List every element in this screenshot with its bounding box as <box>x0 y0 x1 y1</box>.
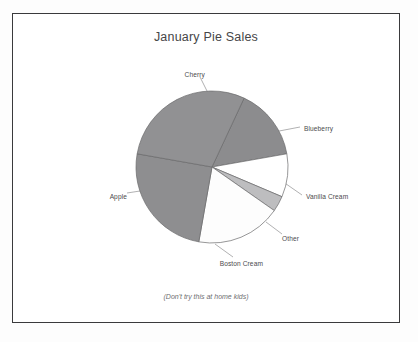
pie-slice-label: Blueberry <box>304 125 333 132</box>
pie-chart: BlueberryVanilla CreamOtherBoston CreamA… <box>13 14 401 324</box>
pie-slice[interactable] <box>136 154 212 242</box>
pie-slice-label: Other <box>282 235 299 242</box>
leader-line <box>127 191 140 193</box>
pie-slice-label: Vanilla Cream <box>306 193 348 200</box>
leader-line <box>200 77 208 93</box>
chart-frame: January Pie Sales BlueberryVanilla Cream… <box>12 13 400 323</box>
leader-line <box>215 244 233 257</box>
chart-footnote: (Don't try this at home kids) <box>13 293 399 300</box>
pie-svg <box>13 14 401 324</box>
pie-slices-group <box>136 91 288 243</box>
pie-slice-label: Boston Cream <box>220 260 263 267</box>
pie-slice-label: Cherry <box>185 71 205 78</box>
pie-slice-label: Apple <box>110 193 127 200</box>
leader-line <box>266 222 282 234</box>
scan-background: January Pie Sales BlueberryVanilla Cream… <box>0 0 418 342</box>
